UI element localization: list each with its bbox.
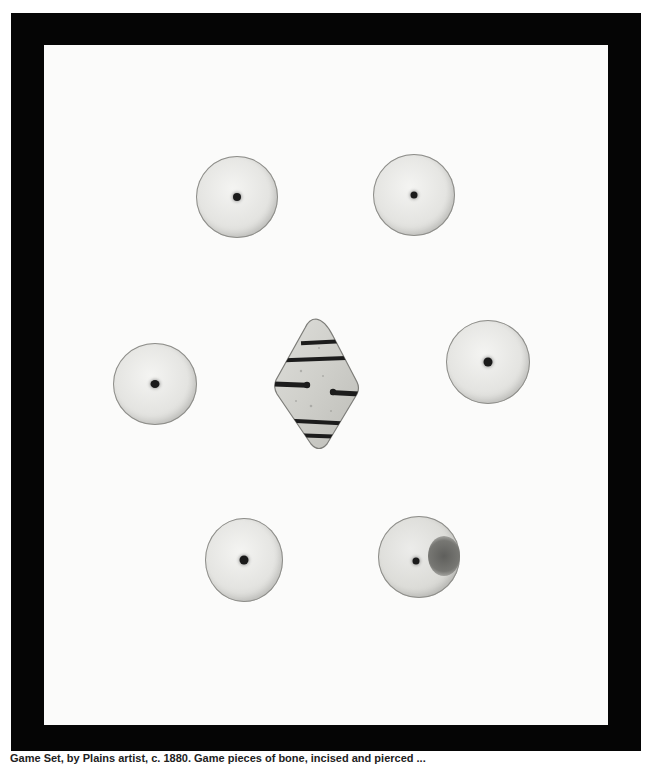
hole-icon <box>240 556 249 565</box>
disc-top-left <box>196 156 278 238</box>
disc-middle-right <box>446 320 530 404</box>
diamond-game-piece <box>271 316 361 454</box>
hole-icon <box>151 380 160 388</box>
stain-mark <box>428 536 460 576</box>
hole-icon <box>412 558 419 565</box>
hole-icon <box>411 192 418 199</box>
disc-bottom-left <box>205 518 283 602</box>
disc-middle-left <box>113 343 197 425</box>
disc-bottom-right <box>378 516 460 598</box>
hole-icon <box>484 358 493 367</box>
caption-text: Game Set, by Plains artist, c. 1880. Gam… <box>10 751 426 765</box>
disc-top-right <box>373 154 455 236</box>
hole-icon <box>233 193 241 201</box>
